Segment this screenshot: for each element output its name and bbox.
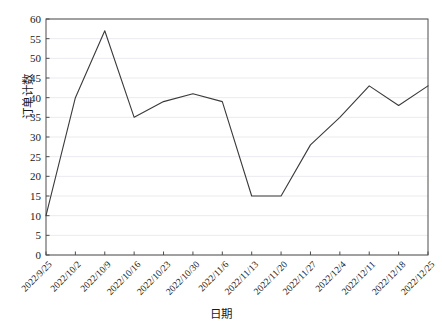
y-axis-title: 订单计数 <box>19 51 35 141</box>
x-axis-tick-labels: 2022/9/252022/10/22022/10/92022/10/16202… <box>0 0 442 329</box>
x-tick-label: 2022/9/25 <box>20 260 54 294</box>
x-tick-label: 2022/10/2 <box>50 260 84 294</box>
x-axis-title: 日期 <box>0 305 442 321</box>
line-chart: 051015202530354045505560 2022/9/252022/1… <box>0 0 442 329</box>
